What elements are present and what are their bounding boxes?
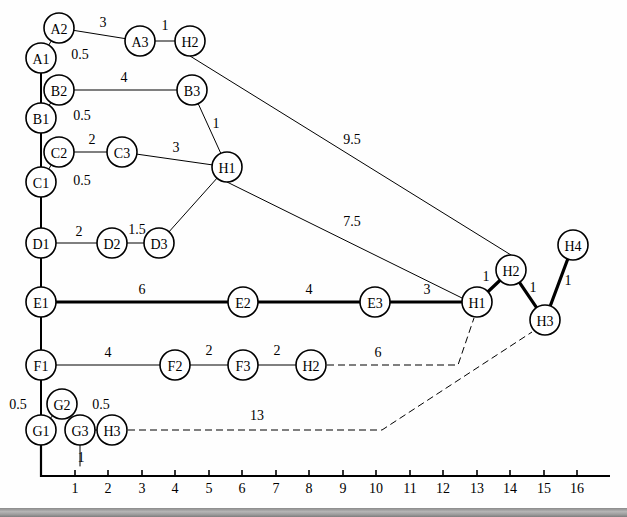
node-label: G3 [71, 424, 88, 439]
axis-tick-label: 12 [436, 481, 450, 496]
node-label: F2 [168, 359, 183, 374]
node-H4[interactable]: H4 [558, 230, 588, 260]
node-H3r[interactable]: H3 [530, 305, 560, 335]
link-13 [128, 332, 532, 430]
node-label: E3 [367, 296, 383, 311]
node-label: H1 [468, 296, 485, 311]
long-link-weight-label: 7.5 [343, 214, 361, 229]
edge-D3-H1c [169, 178, 217, 232]
axis-line [41, 430, 610, 476]
node-H3g[interactable]: H3 [97, 415, 127, 445]
node-G3[interactable]: G3 [65, 415, 95, 445]
edge-weight-label: 1 [162, 18, 169, 33]
edge-weight-label: 0.5 [9, 397, 27, 412]
node-label: C3 [114, 146, 130, 161]
node-label: A2 [50, 22, 67, 37]
axis-tick-label: 9 [340, 481, 347, 496]
node-H2t[interactable]: H2 [175, 26, 205, 56]
edge-weight-label: 4 [105, 345, 112, 360]
edge-weight-label: 1 [483, 269, 490, 284]
node-label: H3 [536, 314, 553, 329]
node-label: E1 [33, 296, 49, 311]
node-A2[interactable]: A2 [44, 13, 74, 43]
edge-H1r-H2r [488, 280, 500, 291]
edge-weight-label: 1 [565, 273, 572, 288]
node-C3[interactable]: C3 [107, 137, 137, 167]
node-F3[interactable]: F3 [228, 350, 258, 380]
axis-tick-label: 4 [172, 481, 179, 496]
node-label: H2 [302, 359, 319, 374]
node-H2r[interactable]: H2 [496, 255, 526, 285]
node-label: F1 [34, 359, 49, 374]
axis-tick-label: 15 [537, 481, 551, 496]
node-label: G1 [32, 424, 49, 439]
node-label: B2 [51, 84, 67, 99]
edge-weight-label: 2 [89, 132, 96, 147]
node-label: D3 [150, 237, 167, 252]
page-edge-shadow [0, 508, 627, 517]
axis-tick-label: 5 [206, 481, 213, 496]
axis-tick-label: 8 [306, 481, 313, 496]
node-label: B3 [184, 84, 200, 99]
node-G1[interactable]: G1 [26, 415, 56, 445]
axis-tick-label: 10 [369, 481, 383, 496]
edge-weight-label: 4 [306, 282, 313, 297]
node-E3[interactable]: E3 [360, 287, 390, 317]
diagram-canvas: 12345678910111213141516A2A3H2A1B2B3B1C2C… [0, 0, 627, 517]
link-7-5 [227, 182, 462, 298]
axis-tick-label: 3 [139, 481, 146, 496]
node-B3[interactable]: B3 [177, 75, 207, 105]
node-H1c[interactable]: H1 [212, 152, 242, 182]
node-A1[interactable]: A1 [26, 43, 56, 73]
edge-weight-label: 0.5 [71, 47, 89, 62]
node-label: F3 [236, 359, 251, 374]
node-label: H2 [181, 35, 198, 50]
node-label: H4 [564, 239, 581, 254]
node-label: D2 [103, 237, 120, 252]
node-label: E2 [235, 296, 251, 311]
node-F2[interactable]: F2 [160, 350, 190, 380]
node-F1[interactable]: F1 [26, 350, 56, 380]
link-6 [327, 318, 474, 365]
long-link-weight-label: 13 [250, 408, 264, 423]
node-label: B1 [33, 112, 49, 127]
node-C1[interactable]: C1 [26, 167, 56, 197]
long-link-weight-label: 6 [375, 345, 382, 360]
axis-tick-label: 6 [239, 481, 246, 496]
node-D3[interactable]: D3 [144, 228, 174, 258]
axis-layer: 12345678910111213141516 [41, 430, 610, 496]
edge-weight-label: 3 [100, 15, 107, 30]
edge-weight-label: 0.5 [73, 108, 91, 123]
nodes-layer: A2A3H2A1B2B3B1C2C3H1C1D1D2D3H4H2E1E2E3H1… [26, 13, 588, 445]
node-B2[interactable]: B2 [44, 75, 74, 105]
edge-weight-label: 0.5 [92, 397, 110, 412]
node-E2[interactable]: E2 [228, 287, 258, 317]
edge-weight-label: 2 [206, 343, 213, 358]
edge-weight-label: 3 [173, 140, 180, 155]
node-B1[interactable]: B1 [26, 103, 56, 133]
node-label: H3 [103, 424, 120, 439]
edge-weight-label: 0.5 [73, 173, 91, 188]
node-label: H1 [218, 161, 235, 176]
node-H1r[interactable]: H1 [462, 287, 492, 317]
node-label: A3 [131, 35, 148, 50]
axis-tick-label: 11 [403, 481, 416, 496]
node-A3[interactable]: A3 [125, 26, 155, 56]
node-C2[interactable]: C2 [44, 137, 74, 167]
node-D2[interactable]: D2 [97, 228, 127, 258]
node-label: D1 [32, 237, 49, 252]
edge-weight-label: 1 [530, 280, 537, 295]
edge-A2-A3 [74, 30, 125, 38]
node-D1[interactable]: D1 [26, 228, 56, 258]
node-label: A1 [32, 52, 49, 67]
edge-weight-label: 1 [213, 116, 220, 131]
node-H2f[interactable]: H2 [296, 350, 326, 380]
node-G2[interactable]: G2 [47, 389, 77, 419]
axis-tick-label: 1 [72, 481, 79, 496]
node-E1[interactable]: E1 [26, 287, 56, 317]
axis-tick-label: 14 [503, 481, 517, 496]
node-label: G2 [53, 398, 70, 413]
node-label: H2 [502, 264, 519, 279]
long-link-weight-label: 9.5 [343, 132, 361, 147]
node-label: C1 [33, 176, 49, 191]
